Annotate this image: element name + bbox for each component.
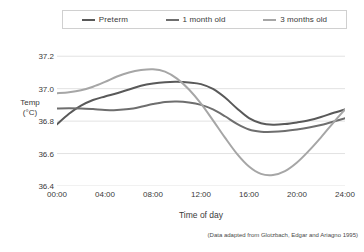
x-axis-tick-label: 24:00 [325, 190, 364, 199]
series-line-1-month-old [57, 101, 345, 131]
y-axis-tick-label: 37.2 [24, 52, 54, 61]
x-axis-tick-label: 08:00 [133, 190, 173, 199]
y-axis-tick-label: 36.6 [24, 149, 54, 158]
x-axis-tick-label: 04:00 [85, 190, 125, 199]
x-axis-tick-label: 20:00 [277, 190, 317, 199]
y-axis-tick-label: 36.8 [24, 117, 54, 126]
x-axis-tick-label: 00:00 [37, 190, 77, 199]
plot-svg [57, 40, 345, 186]
x-axis-ticks: 00:0004:0008:0012:0016:0020:0024:00 [57, 190, 345, 202]
legend-item-1-month-old: 1 month old [166, 15, 226, 24]
legend-swatch-3-months-old [263, 19, 276, 21]
legend-item-preterm: Preterm [82, 15, 128, 24]
legend-label-preterm: Preterm [99, 15, 128, 24]
series-lines [57, 69, 345, 175]
legend-item-3-months-old: 3 months old [263, 15, 327, 24]
legend-label-1-month-old: 1 month old [183, 15, 226, 24]
chart-legend: Preterm 1 month old 3 months old [62, 10, 347, 29]
source-note: (Data adapted from Glotzbach, Edgar and … [0, 232, 358, 238]
legend-label-3-months-old: 3 months old [280, 15, 327, 24]
plot-area [57, 40, 345, 186]
chart-container: Preterm 1 month old 3 months old Temp (°… [0, 0, 364, 252]
x-axis-tick-label: 12:00 [181, 190, 221, 199]
y-axis-ticks: 37.237.036.836.636.4 [18, 40, 54, 186]
x-axis-tick-label: 16:00 [229, 190, 269, 199]
x-axis-label: Time of day [57, 210, 345, 220]
legend-swatch-1-month-old [166, 19, 179, 21]
y-axis-tick-label: 37.0 [24, 84, 54, 93]
legend-swatch-preterm [82, 19, 95, 21]
